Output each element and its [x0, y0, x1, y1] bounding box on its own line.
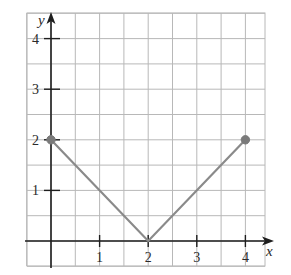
- x-tick-label: 1: [96, 250, 103, 265]
- x-axis-label: x: [265, 243, 273, 259]
- x-tick-label: 4: [242, 250, 249, 265]
- graph-figure: 12341234 x y: [0, 0, 291, 275]
- x-tick-label: 3: [193, 250, 200, 265]
- y-axis-label: y: [36, 12, 45, 28]
- y-tick-label: 3: [32, 82, 39, 97]
- x-tick-label: 2: [145, 250, 152, 265]
- y-tick-label: 1: [32, 183, 39, 198]
- y-tick-label: 4: [32, 32, 39, 47]
- grid-lines: [27, 13, 265, 266]
- endpoint-dot: [241, 136, 249, 144]
- endpoint-dot: [47, 136, 55, 144]
- y-tick-label: 2: [32, 133, 39, 148]
- ticks: 12341234: [32, 32, 249, 265]
